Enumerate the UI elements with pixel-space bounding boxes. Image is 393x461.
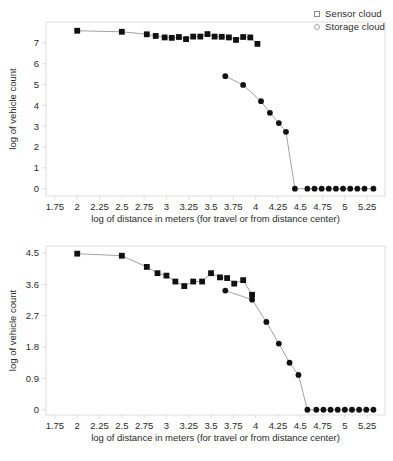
legend-item-sensor-cloud[interactable]: Sensor cloud xyxy=(314,8,385,21)
x-axis-title: log of distance in meters (for travel or… xyxy=(91,432,340,443)
data-point-square[interactable] xyxy=(169,35,175,41)
data-point-circle[interactable] xyxy=(356,407,362,413)
data-point-square[interactable] xyxy=(219,34,225,40)
y-tick-label: 6 xyxy=(34,58,39,69)
x-tick-label: 3.5 xyxy=(204,201,217,212)
x-tick-label: 2.5 xyxy=(115,201,128,212)
data-point-square[interactable] xyxy=(255,41,261,47)
data-point-circle[interactable] xyxy=(283,129,289,135)
data-point-circle[interactable] xyxy=(222,73,228,79)
data-point-square[interactable] xyxy=(233,37,239,43)
x-tick-label: 3.5 xyxy=(204,420,217,431)
y-tick-label: 4.5 xyxy=(26,247,39,258)
y-tick-label: 3.6 xyxy=(26,279,39,290)
x-tick-label: 3.75 xyxy=(224,420,243,431)
data-point-square[interactable] xyxy=(240,34,246,40)
data-point-circle[interactable] xyxy=(276,341,282,347)
data-point-circle[interactable] xyxy=(326,186,332,192)
x-tick-label: 2.25 xyxy=(90,201,109,212)
x-tick-label: 5 xyxy=(342,420,347,431)
data-point-square[interactable] xyxy=(164,273,170,279)
data-point-circle[interactable] xyxy=(249,297,255,303)
data-point-square[interactable] xyxy=(153,33,159,39)
data-point-square[interactable] xyxy=(199,279,205,285)
data-point-square[interactable] xyxy=(231,281,237,287)
data-point-circle[interactable] xyxy=(222,288,228,294)
data-point-square[interactable] xyxy=(183,36,189,42)
x-tick-label: 2 xyxy=(75,420,80,431)
y-tick-label: 2.7 xyxy=(26,310,39,321)
data-point-square[interactable] xyxy=(208,270,214,276)
x-tick-label: 5 xyxy=(342,201,347,212)
x-tick-label: 5.25 xyxy=(358,420,377,431)
y-tick-label: 4 xyxy=(34,100,39,111)
x-tick-label: 4.5 xyxy=(294,201,307,212)
data-point-square[interactable] xyxy=(74,251,80,257)
data-point-circle[interactable] xyxy=(240,82,246,88)
x-tick-label: 1.75 xyxy=(46,420,65,431)
data-point-circle[interactable] xyxy=(371,186,377,192)
data-point-square[interactable] xyxy=(197,34,203,40)
data-point-square[interactable] xyxy=(144,264,150,270)
data-point-circle[interactable] xyxy=(319,186,325,192)
data-point-square[interactable] xyxy=(224,275,230,281)
data-point-circle[interactable] xyxy=(276,120,282,126)
data-point-circle[interactable] xyxy=(347,186,353,192)
data-point-square[interactable] xyxy=(155,270,161,276)
data-point-square[interactable] xyxy=(172,279,178,285)
x-tick-label: 3 xyxy=(164,201,169,212)
data-point-square[interactable] xyxy=(190,279,196,285)
data-point-circle[interactable] xyxy=(296,372,302,378)
data-point-circle[interactable] xyxy=(263,319,269,325)
x-tick-label: 3.25 xyxy=(179,201,198,212)
data-point-circle[interactable] xyxy=(304,186,310,192)
y-axis-title: log of vehicle count xyxy=(7,289,18,371)
data-point-square[interactable] xyxy=(190,34,196,40)
data-point-circle[interactable] xyxy=(292,186,298,192)
data-point-circle[interactable] xyxy=(313,407,319,413)
data-point-circle[interactable] xyxy=(321,407,327,413)
data-point-circle[interactable] xyxy=(371,407,377,413)
data-point-circle[interactable] xyxy=(342,407,348,413)
data-point-circle[interactable] xyxy=(333,186,339,192)
legend-item-storage-cloud[interactable]: Storage cloud xyxy=(314,21,385,34)
y-tick-label: 3 xyxy=(34,121,39,132)
x-tick-label: 2.25 xyxy=(90,420,109,431)
data-point-circle[interactable] xyxy=(340,186,346,192)
data-point-square[interactable] xyxy=(205,31,211,37)
x-tick-label: 4.25 xyxy=(269,420,288,431)
data-point-square[interactable] xyxy=(74,28,80,34)
data-point-circle[interactable] xyxy=(258,98,264,104)
data-point-square[interactable] xyxy=(144,31,150,37)
data-point-circle[interactable] xyxy=(267,110,273,116)
data-point-circle[interactable] xyxy=(335,407,341,413)
y-tick-label: 7 xyxy=(34,37,39,48)
data-point-circle[interactable] xyxy=(312,186,318,192)
square-icon xyxy=(314,11,320,17)
data-point-square[interactable] xyxy=(217,274,223,280)
x-tick-label: 4.5 xyxy=(294,420,307,431)
data-point-circle[interactable] xyxy=(304,407,310,413)
data-point-square[interactable] xyxy=(162,35,168,41)
data-point-circle[interactable] xyxy=(354,186,360,192)
data-point-circle[interactable] xyxy=(328,407,334,413)
data-point-circle[interactable] xyxy=(287,360,293,366)
data-point-square[interactable] xyxy=(212,34,218,40)
data-point-circle[interactable] xyxy=(362,186,368,192)
data-point-square[interactable] xyxy=(119,253,125,259)
data-point-square[interactable] xyxy=(176,34,182,40)
data-point-circle[interactable] xyxy=(363,407,369,413)
y-tick-label: 1.8 xyxy=(26,341,39,352)
x-tick-label: 3.25 xyxy=(179,420,198,431)
y-tick-label: 1 xyxy=(34,162,39,173)
legend-label-sensor-cloud: Sensor cloud xyxy=(325,8,382,21)
data-point-square[interactable] xyxy=(226,35,232,41)
x-tick-label: 2.75 xyxy=(135,201,154,212)
plot-frame xyxy=(46,246,385,415)
data-point-circle[interactable] xyxy=(349,407,355,413)
data-point-square[interactable] xyxy=(240,277,246,283)
legend-label-storage-cloud: Storage cloud xyxy=(325,21,385,34)
data-point-square[interactable] xyxy=(119,29,125,35)
data-point-square[interactable] xyxy=(181,283,187,289)
data-point-square[interactable] xyxy=(247,35,253,41)
